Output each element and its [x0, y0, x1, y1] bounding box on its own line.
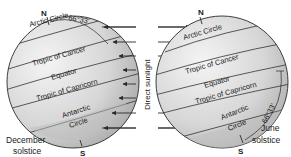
- left-globe: Arctic Circle Tropic of Cancer Equator T…: [5, 9, 145, 157]
- right-caption-line2: solstice: [252, 135, 281, 145]
- left-caption-line1: December: [6, 135, 45, 145]
- solstice-diagram: Arctic Circle Tropic of Cancer Equator T…: [0, 0, 291, 157]
- right-north-label: N: [198, 8, 204, 17]
- right-caption-line1: June: [261, 123, 280, 133]
- direct-sunlight-label: Direct sunlight: [143, 59, 152, 110]
- left-caption-line2: solstice: [13, 146, 42, 156]
- right-south-label: S: [238, 147, 244, 156]
- left-south-label: S: [80, 149, 86, 157]
- right-globe: Arctic Circle Tropic of Cancer Equator T…: [155, 8, 290, 156]
- left-north-label: N: [41, 9, 47, 18]
